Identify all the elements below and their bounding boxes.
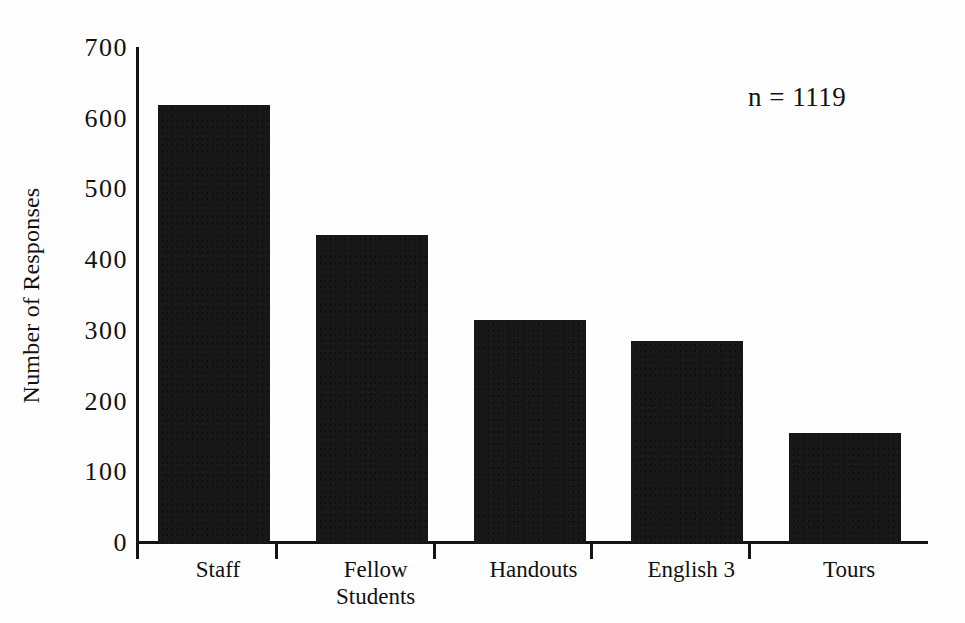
bar bbox=[474, 320, 586, 543]
x-axis-tick bbox=[433, 544, 436, 559]
y-axis-tick-label: 300 bbox=[8, 318, 128, 344]
x-axis-category-label: Tours bbox=[770, 556, 928, 583]
y-axis-tick-label: 200 bbox=[8, 389, 128, 415]
x-axis-tick bbox=[590, 544, 593, 559]
sample-size-annotation: n = 1119 bbox=[748, 82, 846, 112]
x-axis-category-label: Fellow Students bbox=[297, 556, 455, 610]
x-axis-category-label: English 3 bbox=[612, 556, 770, 583]
y-axis-tick-labels: 7006005004003002001000 bbox=[0, 0, 128, 623]
y-axis-tick-label: 100 bbox=[8, 459, 128, 485]
x-axis-tick bbox=[748, 544, 751, 559]
x-axis-tick bbox=[275, 544, 278, 559]
y-axis-tick-label: 0 bbox=[8, 530, 128, 556]
x-axis-category-label: Staff bbox=[139, 556, 297, 583]
y-axis-tick-label: 500 bbox=[8, 176, 128, 202]
bar bbox=[789, 433, 901, 543]
plot-area bbox=[139, 48, 928, 543]
y-axis-tick-label: 600 bbox=[8, 106, 128, 132]
bar-chart-figure: Number of Responses 70060050040030020010… bbox=[0, 0, 965, 623]
y-axis-tick-label: 400 bbox=[8, 247, 128, 273]
x-axis-category-label: Handouts bbox=[455, 556, 613, 583]
bar bbox=[316, 235, 428, 543]
bar bbox=[158, 105, 270, 543]
y-axis-tick-label: 700 bbox=[8, 35, 128, 61]
bar bbox=[631, 341, 743, 543]
